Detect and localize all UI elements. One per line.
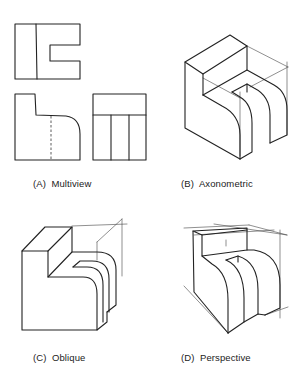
axonometric-drawing [154, 0, 308, 190]
object-outline [185, 35, 287, 159]
caption-axonometric: (B) Axonometric [181, 178, 253, 189]
caption-oblique: (C) Oblique [33, 352, 85, 363]
side-view [93, 94, 146, 160]
caption-name: Multiview [51, 178, 91, 189]
panel-axonometric: (B) Axonometric [154, 0, 308, 190]
multiview-drawing [0, 0, 154, 190]
caption-perspective: (D) Perspective [181, 352, 251, 363]
panel-perspective: (D) Perspective [154, 190, 308, 378]
caption-name: Axonometric [199, 178, 253, 189]
oblique-drawing [0, 190, 154, 378]
object-outline [193, 228, 280, 333]
caption-label: (C) [33, 352, 47, 363]
panel-oblique: (C) Oblique [0, 190, 154, 378]
front-view [15, 94, 80, 160]
caption-multiview: (A) Multiview [33, 178, 91, 189]
caption-label: (D) [181, 352, 195, 363]
object-outline [22, 227, 116, 330]
caption-label: (A) [33, 178, 46, 189]
construction-lines [184, 224, 288, 333]
panel-multiview: (A) Multiview [0, 0, 154, 190]
caption-name: Oblique [52, 352, 85, 363]
perspective-drawing [154, 190, 308, 378]
caption-name: Perspective [200, 352, 251, 363]
top-view [15, 24, 80, 79]
caption-label: (B) [181, 178, 194, 189]
